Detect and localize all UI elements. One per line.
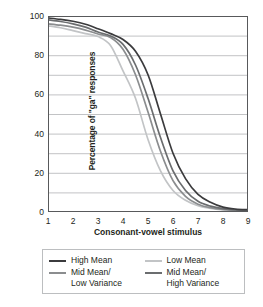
x-tick-label: 4 bbox=[121, 216, 126, 226]
y-tick-label: 80 bbox=[35, 50, 44, 60]
x-tick-label: 9 bbox=[246, 216, 251, 226]
plot-area: 020406080100 123456789 Percentage of "ga… bbox=[48, 16, 248, 212]
x-tick-label: 5 bbox=[146, 216, 151, 226]
series-line bbox=[48, 26, 248, 211]
chart-legend: High MeanLow MeanMid Mean/ Low VarianceM… bbox=[42, 249, 245, 294]
y-tick-label: 20 bbox=[35, 168, 44, 178]
line-chart-canvas bbox=[48, 16, 248, 212]
y-tick-label: 100 bbox=[30, 11, 44, 21]
series-line bbox=[48, 20, 248, 210]
y-axis-title: Percentage of "ga" responses bbox=[87, 13, 97, 209]
legend-label: High Mean bbox=[71, 255, 112, 266]
legend-line-swatch bbox=[49, 260, 66, 262]
legend-entry: Mid Mean/ High Variance bbox=[145, 267, 241, 290]
legend-entry: Low Mean bbox=[145, 255, 241, 267]
x-tick-label: 3 bbox=[96, 216, 101, 226]
y-tick-label: 60 bbox=[35, 89, 44, 99]
legend-label: Mid Mean/ Low Variance bbox=[71, 267, 122, 289]
x-tick-label: 6 bbox=[171, 216, 176, 226]
x-tick-label: 8 bbox=[221, 216, 226, 226]
chart-figure: 020406080100 123456789 Percentage of "ga… bbox=[0, 0, 263, 307]
legend-line-swatch bbox=[145, 272, 162, 274]
x-axis-title: Consonant-vowel stimulus bbox=[48, 227, 248, 237]
x-tick-label: 7 bbox=[196, 216, 201, 226]
legend-label: Low Mean bbox=[167, 255, 206, 266]
x-tick-label: 2 bbox=[71, 216, 76, 226]
y-tick-label: 0 bbox=[39, 207, 44, 217]
legend-entry: High Mean bbox=[49, 255, 145, 267]
legend-grid: High MeanLow MeanMid Mean/ Low VarianceM… bbox=[43, 250, 244, 293]
legend-entry: Mid Mean/ Low Variance bbox=[49, 267, 145, 290]
legend-line-swatch bbox=[49, 272, 66, 274]
legend-line-swatch bbox=[145, 260, 162, 262]
series-line bbox=[48, 24, 248, 210]
x-tick-label: 1 bbox=[46, 216, 51, 226]
legend-label: Mid Mean/ High Variance bbox=[167, 267, 220, 289]
y-tick-label: 40 bbox=[35, 129, 44, 139]
